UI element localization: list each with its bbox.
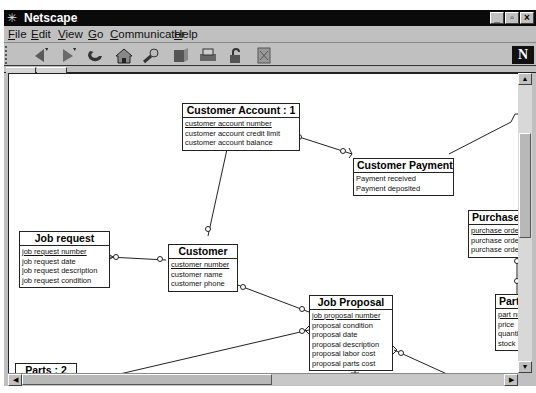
search-icon[interactable]: [142, 47, 162, 64]
entity-title: Job request: [20, 232, 109, 246]
horizontal-scroll-thumb[interactable]: [22, 374, 272, 385]
forward-icon[interactable]: [58, 47, 78, 64]
reload-icon[interactable]: [86, 47, 106, 64]
attribute: customer name: [169, 270, 237, 280]
scroll-down-button[interactable]: ▼: [518, 361, 532, 373]
page-content: Customer Account : 1 customer account nu…: [8, 73, 518, 373]
entity-parts[interactable]: Part part nu price quantit stock: [495, 294, 518, 351]
entity-title: Customer Payment: [354, 159, 453, 173]
entity-customer-account[interactable]: Customer Account : 1 customer account nu…: [182, 103, 300, 151]
entity-job-request[interactable]: Job request job request number job reque…: [19, 231, 110, 288]
attribute: job request description: [20, 266, 109, 276]
attribute: proposal parts cost: [310, 359, 392, 369]
netscape-logo[interactable]: N: [512, 46, 534, 64]
window-title: Netscape: [24, 11, 77, 25]
attribute: quantit: [496, 329, 518, 339]
vertical-scrollbar[interactable]: ▲ ▼: [518, 73, 532, 373]
scrollbar-corner: [518, 373, 532, 385]
menu-view[interactable]: View: [58, 27, 83, 41]
vertical-scroll-thumb[interactable]: [519, 133, 531, 238]
attribute-primary-key: purchase orde: [469, 226, 518, 236]
attribute-primary-key: job request number: [20, 247, 109, 257]
attribute-primary-key: customer number: [169, 260, 237, 270]
entity-customer-payment[interactable]: Customer Payment Payment received Paymen…: [353, 158, 454, 196]
entity-title: Parts : 2: [16, 364, 76, 373]
attribute: price: [496, 320, 518, 330]
print-icon[interactable]: [198, 47, 218, 64]
restore-button[interactable]: ▫: [505, 12, 519, 24]
entity-job-proposal[interactable]: Job Proposal job proposal number proposa…: [309, 295, 393, 371]
attribute: customer account balance: [183, 138, 299, 148]
attribute: customer account credit limit: [183, 129, 299, 139]
attribute: purchase orde: [469, 236, 518, 246]
stop-icon[interactable]: [254, 47, 274, 64]
menu-bar: File Edit View Go Communicator Help: [4, 26, 536, 43]
minimize-button[interactable]: _: [490, 12, 504, 24]
horizontal-scrollbar[interactable]: ◀ ▶: [8, 373, 518, 385]
browser-window: ✳ Netscape _ ▫ × File Edit View Go Commu…: [4, 10, 536, 386]
guide-icon[interactable]: [170, 47, 190, 64]
attribute: purchase orde: [469, 245, 518, 255]
attribute: customer phone: [169, 279, 237, 289]
title-bar[interactable]: ✳ Netscape _ ▫ ×: [4, 10, 536, 26]
scroll-up-button[interactable]: ▲: [518, 73, 532, 85]
toolbar-grip[interactable]: [5, 46, 11, 64]
menu-file[interactable]: File: [8, 27, 27, 41]
attribute: proposal condition: [310, 321, 392, 331]
entity-title: Part: [496, 295, 518, 309]
attribute: proposal description: [310, 340, 392, 350]
attribute: stock: [496, 339, 518, 349]
scroll-left-button[interactable]: ◀: [8, 374, 22, 386]
attribute: proposal labor cost: [310, 349, 392, 359]
menu-help[interactable]: Help: [174, 27, 198, 41]
attribute-primary-key: part nu: [496, 310, 518, 320]
entity-purchase-order[interactable]: Purchase purchase orde purchase orde pur…: [468, 210, 518, 258]
entity-customer[interactable]: Customer customer number customer name c…: [168, 244, 238, 292]
attribute-primary-key: customer account number: [183, 119, 299, 129]
menu-go[interactable]: Go: [88, 27, 103, 41]
back-icon[interactable]: [30, 47, 50, 64]
security-icon[interactable]: [226, 47, 246, 64]
attribute-primary-key: job proposal number: [310, 311, 392, 321]
attribute: job request condition: [20, 276, 109, 286]
entity-parts-2[interactable]: Parts : 2: [15, 363, 77, 373]
attribute: Payment received: [354, 174, 453, 184]
scroll-right-button[interactable]: ▶: [504, 374, 518, 386]
navigation-toolbar: N: [4, 44, 536, 66]
attribute: job request date: [20, 257, 109, 267]
menu-edit[interactable]: Edit: [31, 27, 51, 41]
close-button[interactable]: ×: [520, 12, 534, 24]
entity-title: Customer: [169, 245, 237, 259]
attribute: Payment deposited: [354, 184, 453, 194]
entity-title: Job Proposal: [310, 296, 392, 310]
attribute: proposal date: [310, 330, 392, 340]
entity-title: Purchase: [469, 211, 518, 225]
entity-title: Customer Account : 1: [183, 104, 299, 118]
home-icon[interactable]: [114, 47, 134, 64]
netscape-app-icon: ✳: [7, 12, 21, 24]
